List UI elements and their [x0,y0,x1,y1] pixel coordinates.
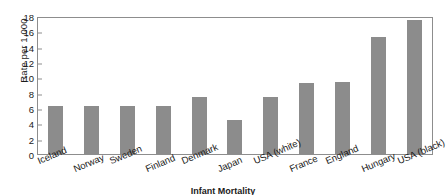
x-tick-label: France [288,153,319,173]
bar-slot [253,18,289,154]
bar-slot [74,18,110,154]
bar-france [299,83,314,154]
x-tick-label: Hungary [360,151,397,174]
x-tick-label: Japan [216,155,244,174]
bar-slot [325,18,361,154]
bar-slot [396,18,432,154]
bar-slot [360,18,396,154]
bar-slot [181,18,217,154]
y-tick-label: 12 [23,59,34,69]
bar-japan [227,120,242,154]
y-tick-label: 4 [29,121,34,131]
bar-norway [84,106,99,154]
x-tick-label: Norway [72,152,105,173]
bar-hungary [371,37,386,154]
y-tick-label: 18 [23,13,34,23]
bar-slot [145,18,181,154]
bar-slot [38,18,74,154]
bar-slot [217,18,253,154]
bar-finland [156,106,171,154]
bars-container [38,18,432,154]
x-tick-label: Finland [144,153,176,174]
y-tick-label: 14 [23,44,34,54]
y-tick-label: 6 [29,105,34,115]
y-tick-label: 10 [23,75,34,85]
y-tick-label: 2 [29,136,34,146]
bar-slot [289,18,325,154]
chart-caption: Infant Mortality [0,186,446,195]
y-tick-label: 8 [29,90,34,100]
y-tick-label: 16 [23,29,34,39]
bar-usa-black [407,20,422,154]
x-axis-labels: IcelandNorwaySwedenFinlandDenmarkJapanUS… [37,155,433,189]
infant-mortality-bar-chart: Rate per 1,000 181614121086420 IcelandNo… [0,0,446,195]
y-tick-label: 0 [29,151,34,161]
bar-slot [110,18,146,154]
bar-england [335,82,350,154]
plot-area: 181614121086420 [37,17,433,155]
